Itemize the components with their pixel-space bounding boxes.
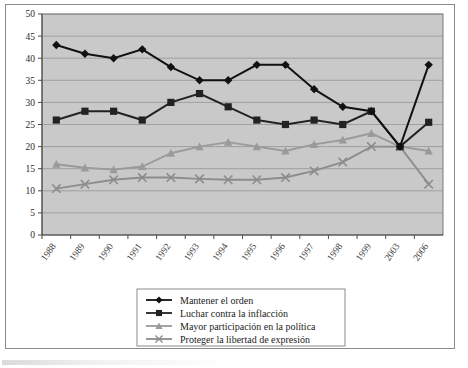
x-tick-label: 1995 — [239, 241, 258, 263]
square-marker — [139, 116, 146, 123]
chart-figure: 05101520253035404550 1988198919901991199… — [0, 0, 468, 368]
y-tick-label: 35 — [26, 76, 36, 86]
y-tick-label: 40 — [26, 54, 36, 64]
x-tick-label: 1988 — [39, 241, 58, 263]
legend-label: Proteger la libertad de expresión — [180, 334, 310, 345]
y-axis-tick-labels: 05101520253035404550 — [26, 9, 36, 240]
x-tick-label: 1993 — [182, 241, 201, 263]
y-axis-ticks — [38, 14, 42, 235]
y-tick-label: 25 — [26, 120, 36, 130]
square-marker — [253, 116, 260, 123]
y-tick-label: 20 — [26, 142, 36, 152]
x-tick-label: 1990 — [96, 241, 115, 263]
y-tick-label: 5 — [30, 208, 35, 218]
x-tick-label: 1996 — [268, 241, 287, 263]
x-tick-label: 1999 — [354, 241, 373, 263]
legend-label: Mantener el orden — [180, 295, 253, 306]
y-tick-label: 50 — [26, 9, 36, 19]
square-marker — [81, 108, 88, 115]
legend-label: Luchar contra la inflacción — [180, 308, 288, 319]
x-axis-tick-labels: 1988198919901991199219931994199519961997… — [39, 241, 431, 263]
x-tick-label: 2006 — [411, 241, 430, 263]
y-tick-label: 10 — [26, 186, 36, 196]
square-marker — [156, 310, 162, 316]
square-marker — [167, 99, 174, 106]
x-tick-label: 1997 — [297, 241, 316, 263]
page-footer-text-smudge — [2, 360, 217, 365]
square-marker — [339, 121, 346, 128]
legend-label: Mayor participación en la política — [180, 321, 316, 332]
square-marker — [282, 121, 289, 128]
square-marker — [225, 103, 232, 110]
square-marker — [311, 116, 318, 123]
x-tick-label: 1989 — [68, 241, 87, 263]
x-tick-label: 1991 — [125, 241, 144, 263]
y-tick-label: 45 — [26, 32, 36, 42]
y-tick-label: 15 — [26, 164, 36, 174]
x-tick-label: 1994 — [211, 241, 230, 263]
square-marker — [110, 108, 117, 115]
square-marker — [53, 116, 60, 123]
y-tick-label: 0 — [30, 230, 35, 240]
y-tick-label: 30 — [26, 98, 36, 108]
square-marker — [425, 119, 432, 126]
x-axis-ticks — [42, 235, 414, 239]
square-marker — [196, 90, 203, 97]
x-tick-label: 1998 — [325, 241, 344, 263]
x-tick-label: 1992 — [153, 241, 172, 263]
x-tick-label: 2003 — [383, 241, 402, 263]
line-chart: 05101520253035404550 1988198919901991199… — [0, 0, 468, 368]
